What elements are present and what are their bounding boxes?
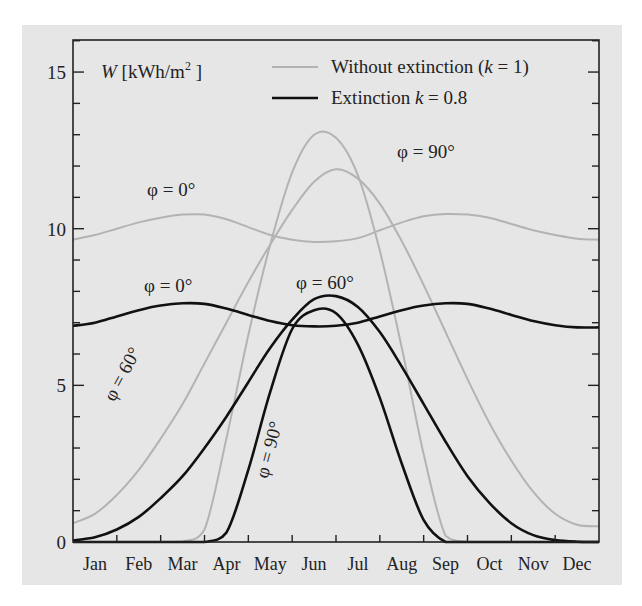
x-tick-label: Aug <box>380 555 424 573</box>
x-tick-label: Mar <box>161 555 205 573</box>
series-line <box>73 214 599 242</box>
x-tick-label: Sep <box>424 555 468 573</box>
series-line <box>73 303 599 327</box>
ytick-label: 0 <box>36 533 66 552</box>
annotation-phi0-black: φ = 0° <box>144 276 192 295</box>
ytick-label: 5 <box>36 376 66 395</box>
legend-entry-without-extinction: Without extinction (k = 1) <box>331 57 529 76</box>
x-tick-label: Feb <box>117 555 161 573</box>
series-line <box>73 295 599 542</box>
annotation-phi90-grey: φ = 90° <box>397 142 455 161</box>
ytick-label: 15 <box>36 63 66 82</box>
plot-area <box>0 0 642 606</box>
annotation-phi60-black: φ = 60° <box>296 273 354 292</box>
x-tick-label: Oct <box>467 555 511 573</box>
x-tick-label: Nov <box>511 555 555 573</box>
y-axis-label: W [kWh/m2 ] <box>101 62 202 81</box>
annotation-phi0-grey: φ = 0° <box>147 180 195 199</box>
x-tick-label: Jul <box>336 555 380 573</box>
series-line <box>73 169 599 526</box>
x-tick-label: Apr <box>204 555 248 573</box>
x-tick-label: Dec <box>555 555 599 573</box>
x-tick-label: Jun <box>292 555 336 573</box>
x-tick-label: May <box>248 555 292 573</box>
ytick-label: 10 <box>36 220 66 239</box>
legend-entry-extinction: Extinction k = 0.8 <box>331 88 467 107</box>
x-tick-label: Jan <box>73 555 117 573</box>
